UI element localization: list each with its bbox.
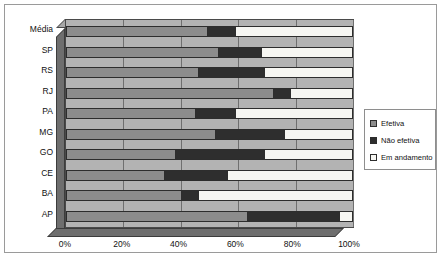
bar-segment (339, 211, 353, 222)
bar-segment (66, 88, 273, 99)
category-label: RS (7, 65, 53, 75)
plot-floor-face (47, 228, 344, 237)
bar-segment (66, 149, 175, 160)
value-axis-tick-label: 0% (48, 239, 82, 250)
bar-segment (290, 88, 353, 99)
legend-swatch-icon (370, 137, 377, 144)
bar-segment (284, 129, 353, 140)
bar-rows (66, 20, 353, 227)
value-axis-tick-label: 80% (275, 239, 309, 250)
bar-segment (198, 190, 353, 201)
bar-row (66, 67, 353, 78)
value-axis-tick-label: 60% (218, 239, 252, 250)
legend-item: Não efetiva (370, 132, 435, 149)
bar-segment (207, 26, 236, 37)
value-axis-tick-label: 100% (332, 239, 366, 250)
bar-row (66, 190, 353, 201)
bar-segment (235, 108, 353, 119)
legend-label: Em andamento (381, 153, 433, 162)
value-axis-tick-label: 20% (105, 239, 139, 250)
bar-segment (235, 26, 353, 37)
value-axis-labels: 0%20%40%60%80%100% (25, 239, 365, 253)
bar-segment (264, 67, 353, 78)
category-label: AP (7, 209, 53, 219)
legend-label: Efetiva (381, 119, 404, 128)
bar-row (66, 170, 353, 181)
bar-segment (66, 190, 181, 201)
bar-segment (66, 170, 164, 181)
legend-swatch-icon (370, 154, 377, 161)
bar-segment (273, 88, 290, 99)
value-axis-tick-label: 40% (162, 239, 196, 250)
legend-item: Efetiva (370, 115, 435, 132)
category-label: BA (7, 188, 53, 198)
category-label: PA (7, 106, 53, 116)
bar-row (66, 88, 353, 99)
bar-segment (66, 129, 215, 140)
plot-back-wall (65, 19, 354, 228)
legend-swatch-icon (370, 120, 377, 127)
chart-frame: MédiaSPRSRJPAMGGOCEBAAP 0%20%40%60%80%10… (4, 4, 437, 253)
category-label: Média (7, 24, 53, 34)
bar-row (66, 129, 353, 140)
bar-row (66, 149, 353, 160)
chart-legend: EfetivaNão efetivaEm andamento (364, 109, 436, 170)
plot-area (56, 19, 354, 237)
bar-row (66, 26, 353, 37)
bar-segment (164, 170, 227, 181)
category-axis-labels: MédiaSPRSRJPAMGGOCEBAAP (5, 19, 53, 237)
bar-segment (66, 108, 195, 119)
bar-segment (198, 67, 264, 78)
bar-segment (66, 47, 218, 58)
plot-left-face (56, 28, 65, 237)
bar-segment (66, 26, 207, 37)
bar-segment (264, 149, 353, 160)
bar-segment (66, 67, 198, 78)
legend-label: Não efetiva (381, 136, 419, 145)
category-label: MG (7, 127, 53, 137)
bar-segment (227, 170, 353, 181)
bar-segment (247, 211, 339, 222)
bar-segment (218, 47, 261, 58)
category-label: CE (7, 168, 53, 178)
bar-row (66, 108, 353, 119)
bar-segment (261, 47, 353, 58)
bar-row (66, 211, 353, 222)
bar-segment (175, 149, 264, 160)
bar-segment (215, 129, 284, 140)
category-label: RJ (7, 86, 53, 96)
legend-item: Em andamento (370, 149, 435, 166)
bar-segment (195, 108, 235, 119)
category-label: SP (7, 45, 53, 55)
bar-segment (66, 211, 247, 222)
category-label: GO (7, 147, 53, 157)
gridline (353, 20, 354, 227)
bar-row (66, 47, 353, 58)
bar-segment (181, 190, 198, 201)
